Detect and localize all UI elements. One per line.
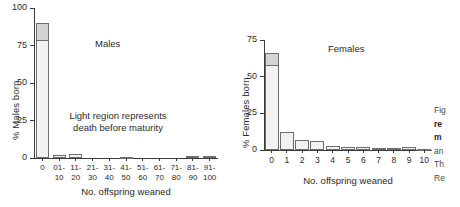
plot-area-females: 0255075012345678910	[264, 40, 432, 150]
caption-line-4: an	[434, 145, 460, 159]
x-tick-males-7	[159, 158, 160, 161]
y-axis-label-males: % Males born	[10, 81, 21, 140]
x-tick-females-4	[332, 150, 333, 153]
caption-line-5: Th	[434, 158, 460, 172]
y-tick-label-females-0: 0	[231, 144, 257, 154]
y-tick-males-2	[30, 83, 34, 84]
bar-cap-males-0	[37, 24, 48, 41]
bar-females-1	[280, 132, 294, 150]
x-tick-males-3	[92, 158, 93, 161]
x-tick-females-0	[271, 150, 272, 153]
x-tick-males-9	[192, 158, 193, 161]
y-tick-females-3	[260, 40, 264, 41]
y-tick-label-females-2: 50	[231, 71, 257, 81]
y-tick-females-1	[260, 113, 264, 114]
y-tick-females-0	[260, 150, 264, 151]
x-tick-males-10	[209, 158, 210, 161]
y-tick-label-males-3: 75	[1, 40, 27, 50]
y-tick-males-4	[30, 8, 34, 9]
y-tick-label-males-2: 50	[1, 77, 27, 87]
y-tick-males-1	[30, 120, 34, 121]
bar-females-3	[310, 141, 324, 150]
y-tick-females-2	[260, 76, 264, 77]
bar-cap-females-0	[266, 54, 278, 66]
x-tick-females-5	[348, 150, 349, 153]
x-tick-females-3	[317, 150, 318, 153]
x-tick-males-6	[142, 158, 143, 161]
y-tick-label-males-1: 25	[1, 115, 27, 125]
x-tick-females-7	[378, 150, 379, 153]
x-tick-label-males-10: 91- 100	[197, 163, 222, 183]
y-tick-label-males-4: 100	[1, 2, 27, 12]
x-tick-males-4	[109, 158, 110, 161]
bar-females-2	[295, 140, 309, 150]
bar-males-0	[36, 23, 49, 158]
y-tick-males-0	[30, 158, 34, 159]
x-tick-females-1	[286, 150, 287, 153]
y-tick-males-3	[30, 45, 34, 46]
x-tick-males-2	[75, 158, 76, 161]
caption-line-2: re	[434, 118, 460, 132]
y-tick-label-females-1: 25	[231, 107, 257, 117]
bar-females-0	[265, 53, 279, 150]
x-axis-label-females: No. offspring weaned	[264, 175, 432, 186]
x-tick-females-2	[302, 150, 303, 153]
y-tick-label-females-3: 75	[231, 34, 257, 44]
x-tick-females-10	[424, 150, 425, 153]
y-tick-label-males-0: 0	[1, 152, 27, 162]
y-axis-line-males	[34, 8, 35, 158]
x-tick-label-females-10: 10	[413, 155, 436, 165]
chart-panel-females: % Females born Females 02550750123456789…	[228, 0, 458, 207]
x-tick-females-8	[393, 150, 394, 153]
figure-root: % Males born Males Light region represen…	[0, 0, 460, 207]
x-tick-females-9	[409, 150, 410, 153]
plot-area-males: 0255075100001- 1011- 2021- 3031- 4041- 5…	[34, 8, 218, 158]
x-tick-males-0	[42, 158, 43, 161]
caption-line-1: Fig	[434, 104, 460, 118]
x-tick-males-1	[59, 158, 60, 161]
x-tick-males-5	[126, 158, 127, 161]
chart-panel-males: % Males born Males Light region represen…	[0, 0, 230, 207]
x-tick-males-8	[176, 158, 177, 161]
caption-line-6: Re	[434, 172, 460, 186]
x-tick-females-6	[363, 150, 364, 153]
x-axis-label-males: No. offspring weaned	[34, 186, 218, 197]
caption-line-3: m	[434, 131, 460, 145]
figure-caption-fragment: Fig re m an Th Re	[434, 104, 460, 185]
